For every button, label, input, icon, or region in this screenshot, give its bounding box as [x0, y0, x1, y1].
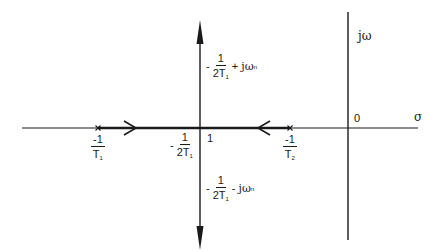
upper-branch-fraction: 1 2T1	[213, 53, 229, 80]
root-locus-canvas	[0, 0, 444, 252]
pole-2-denominator-text: T	[285, 148, 292, 160]
pole-1-numerator: -1	[91, 134, 105, 147]
pole-2-denominator: T2	[285, 147, 295, 161]
pole-1-subscript: 1	[100, 155, 103, 161]
upper-branch-operator: +	[232, 61, 238, 72]
lower-branch-operator: -	[232, 183, 236, 194]
upper-branch-denominator: 2T1	[213, 66, 229, 80]
upper-branch-suffix-subscript: n	[254, 64, 257, 70]
lower-branch-suffix-subscript: n	[251, 186, 254, 192]
pole-2-label: -1 T2	[283, 134, 297, 161]
lower-branch-subscript: 1	[226, 196, 229, 202]
lower-branch-denominator: 2T1	[213, 188, 229, 202]
upper-branch-suffix: jω	[241, 61, 253, 72]
breakaway-denominator: 2T1	[177, 145, 193, 159]
lower-branch-label: - 1 2T1 - jωn	[206, 175, 254, 202]
breakaway-denominator-text: 2T	[177, 146, 190, 158]
breakaway-label: - 1 2T1	[170, 132, 196, 159]
breakaway-prefix: -	[170, 140, 174, 151]
pole-1-denominator: T1	[93, 147, 103, 161]
origin-label: 0	[354, 113, 360, 124]
upper-branch-denominator-text: 2T	[213, 67, 226, 79]
upper-branch-numerator: 1	[216, 53, 226, 66]
lower-branch-prefix: -	[206, 183, 210, 194]
lower-branch-numerator: 1	[216, 175, 226, 188]
arrow-up-icon	[197, 20, 204, 44]
breakaway-numerator: 1	[180, 132, 190, 145]
pole-2-subscript: 2	[292, 155, 295, 161]
upper-branch-subscript: 1	[226, 74, 229, 80]
pole-1-denominator-text: T	[93, 148, 100, 160]
breakaway-fraction: 1 2T1	[177, 132, 193, 159]
arrow-down-icon	[197, 226, 204, 250]
upper-branch-label: - 1 2T1 + jωn	[206, 53, 257, 80]
imaginary-axis-label: jω	[358, 30, 372, 42]
real-axis-label: σ	[414, 111, 422, 123]
pole-1-label: -1 T1	[91, 134, 105, 161]
lower-branch-fraction: 1 2T1	[213, 175, 229, 202]
breakaway-subscript: 1	[190, 153, 193, 159]
upper-branch-prefix: -	[206, 61, 210, 72]
lower-branch-suffix: jω	[239, 183, 251, 194]
pole-2-numerator: -1	[283, 134, 297, 147]
breakaway-right-label: 1	[207, 133, 213, 144]
lower-branch-denominator-text: 2T	[213, 189, 226, 201]
